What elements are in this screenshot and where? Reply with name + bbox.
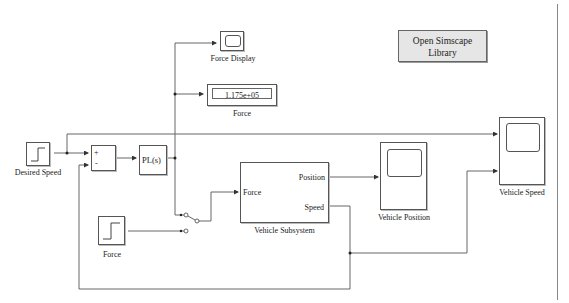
- vehicle-subsystem-block[interactable]: Force Position Speed: [240, 162, 329, 223]
- library-button-line2: Library: [399, 47, 486, 59]
- sum-plus-sign: +: [94, 148, 99, 157]
- force-numeric-label: Force: [207, 109, 277, 118]
- force-step-block[interactable]: [98, 216, 125, 245]
- scope-screen-icon: [225, 35, 241, 47]
- step-icon: [27, 143, 49, 165]
- desired-speed-step-block[interactable]: [26, 142, 50, 166]
- vehicle-speed-scope[interactable]: [499, 117, 545, 185]
- port-force: Force: [243, 188, 261, 197]
- port-speed: Speed: [304, 203, 324, 212]
- sum-minus-sign: -: [95, 159, 98, 168]
- controller-block[interactable]: PL(s): [139, 145, 167, 175]
- vehicle-speed-label: Vehicle Speed: [492, 188, 552, 197]
- scope-screen-icon: [387, 149, 422, 177]
- force-display-scope[interactable]: [220, 31, 244, 51]
- desired-speed-label: Desired Speed: [8, 168, 68, 177]
- force-display-label: Force Display: [198, 54, 268, 63]
- port-position: Position: [299, 173, 325, 182]
- vehicle-subsystem-label: Vehicle Subsystem: [240, 226, 329, 235]
- open-simscape-library-button[interactable]: Open Simscape Library: [398, 30, 487, 62]
- force-numeric-display[interactable]: 1.175e+05: [207, 84, 277, 106]
- vehicle-position-label: Vehicle Position: [370, 213, 438, 222]
- controller-text: PL(s): [142, 155, 161, 165]
- sum-block[interactable]: + -: [91, 145, 116, 171]
- scope-screen-icon: [506, 123, 540, 152]
- canvas-edge-divider: [557, 4, 558, 300]
- force-step-label: Force: [92, 250, 132, 259]
- step-icon: [99, 217, 124, 244]
- library-button-line1: Open Simscape: [399, 35, 486, 47]
- manual-switch[interactable]: [182, 211, 200, 234]
- vehicle-position-scope[interactable]: [380, 142, 427, 210]
- force-display-value: 1.175e+05: [212, 88, 272, 99]
